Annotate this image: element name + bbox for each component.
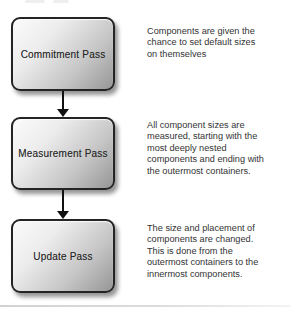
pass-label: Update Pass — [33, 251, 92, 262]
arrow-down-icon — [57, 211, 69, 219]
pass-label: Commitment Pass — [21, 49, 106, 60]
commitment-pass-box: Commitment Pass — [11, 17, 115, 91]
bottom-divider — [0, 305, 290, 307]
update-pass-description: The size and placement of components are… — [147, 223, 287, 280]
layout-passes-diagram: Commitment Pass Measurement Pass Update … — [0, 0, 290, 313]
arrow-line — [62, 91, 64, 110]
arrow-line — [62, 190, 64, 212]
update-pass-box: Update Pass — [11, 219, 115, 293]
commitment-pass-description: Components are given the chance to set d… — [147, 26, 287, 60]
measurement-pass-description: All component sizes are measured, starti… — [147, 120, 287, 177]
measurement-pass-box: Measurement Pass — [11, 117, 115, 190]
cropped-content-artifact — [25, 0, 45, 3]
cropped-content-artifact — [53, 0, 69, 3]
arrow-down-icon — [57, 109, 69, 117]
pass-label: Measurement Pass — [18, 148, 107, 159]
